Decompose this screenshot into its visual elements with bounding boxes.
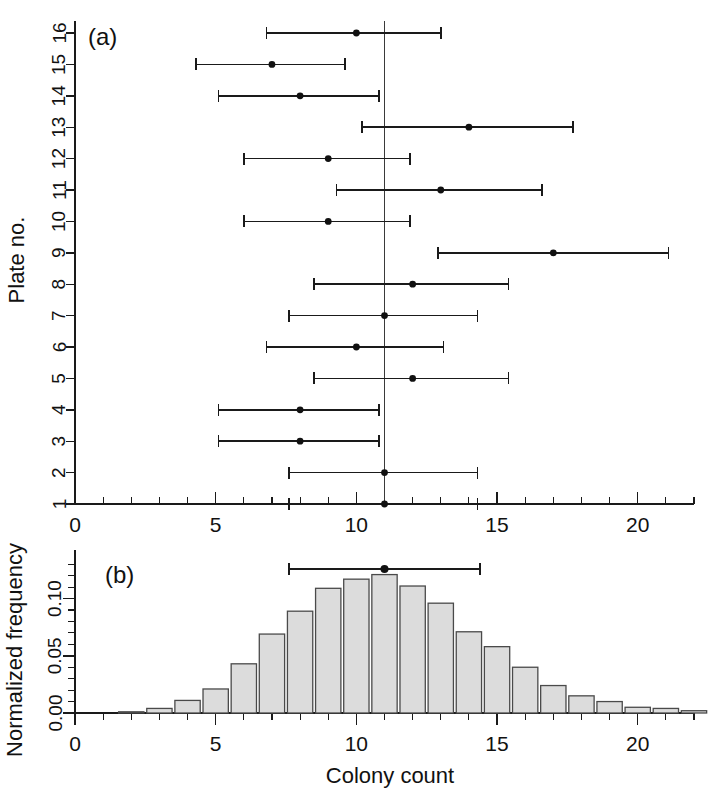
panel-a-y-ticklabel-6: 6 <box>49 342 70 353</box>
panel-b-y-ticklabel-0.10: 0.10 <box>45 580 66 617</box>
interval-estimate-dot <box>269 61 276 68</box>
panel-a-y-ticklabel-7: 7 <box>49 310 70 321</box>
panel-a-y-ticklabel-8: 8 <box>49 279 70 290</box>
interval-estimate-dot <box>381 469 388 476</box>
panel-b-y-ticklabels: 0.000.050.10 <box>45 580 66 731</box>
panel-b-label: (b) <box>105 561 134 588</box>
panel-a-interval-row-plate-4 <box>218 404 378 416</box>
histogram-bar-12 <box>400 586 425 713</box>
histogram-bar-16 <box>513 667 538 713</box>
panel-b-overlay-interval <box>289 563 480 575</box>
interval-estimate-dot <box>297 92 304 99</box>
panel-b-y-ticklabel-0.05: 0.05 <box>45 637 66 674</box>
panel-a-interval-row-plate-8 <box>314 278 508 290</box>
panel-a-interval-row-plate-9 <box>438 247 669 259</box>
panel-a-interval-row-plate-2 <box>289 467 478 479</box>
interval-estimate-dot <box>381 312 388 319</box>
panel-a-x-ticklabel-0: 0 <box>69 513 81 536</box>
histogram-bar-14 <box>456 632 481 713</box>
histogram-bar-21 <box>653 708 678 713</box>
figure-container: (a) Plate no. 12345678910111213141516 05… <box>0 0 710 789</box>
interval-estimate-dot <box>550 249 557 256</box>
histogram-bar-13 <box>428 603 453 713</box>
panel-a-x-ticklabel-15: 15 <box>485 513 508 536</box>
panel-b-y-ticklabel-0.00: 0.00 <box>45 695 66 732</box>
panel-a-y-ticklabel-13: 13 <box>49 117 70 138</box>
interval-estimate-dot <box>297 406 304 413</box>
panel-a-y-ticklabel-1: 1 <box>49 499 70 510</box>
panel-a-y-ticklabel-3: 3 <box>49 436 70 447</box>
panel-a-x-ticklabel-10: 10 <box>345 513 368 536</box>
histogram-bar-9 <box>316 588 341 713</box>
panel-a-y-ticklabel-2: 2 <box>49 467 70 478</box>
panel-a-y-ticklabel-4: 4 <box>49 404 70 415</box>
histogram-bar-20 <box>625 707 650 713</box>
histogram-bar-17 <box>541 686 566 713</box>
panel-a-interval-row-plate-11 <box>337 184 542 196</box>
panel-b-histogram-bars <box>119 575 707 713</box>
panel-a-interval-row-plate-3 <box>218 435 378 447</box>
interval-estimate-dot <box>466 124 473 131</box>
panel-a-interval-row-plate-5 <box>314 372 508 384</box>
panel-a-label: (a) <box>88 23 117 50</box>
panel-a-y-ticklabel-15: 15 <box>49 54 70 75</box>
interval-estimate-dot <box>297 438 304 445</box>
panel-a-y-ticklabel-9: 9 <box>49 248 70 259</box>
histogram-bar-6 <box>231 664 256 713</box>
histogram-bar-2 <box>119 712 144 713</box>
panel-a-y-axis-title: Plate no. <box>4 217 29 304</box>
panel-a-y-ticklabel-14: 14 <box>49 85 70 107</box>
overlay-estimate-dot <box>381 565 389 573</box>
histogram-bar-10 <box>344 579 369 713</box>
panel-a-interval-series <box>196 27 669 510</box>
histogram-bar-4 <box>175 700 200 713</box>
histogram-bar-19 <box>597 702 622 713</box>
histogram-bar-22 <box>681 711 706 713</box>
panel-b-y-axis-title: Normalized frequency <box>2 543 27 757</box>
interval-estimate-dot <box>409 375 416 382</box>
panel-a-interval-row-plate-7 <box>289 310 478 322</box>
interval-estimate-dot <box>353 344 360 351</box>
panel-b-x-ticklabel-15: 15 <box>485 732 508 755</box>
panel-b-y-axis <box>63 550 75 713</box>
panel-a-x-ticklabels: 05101520 <box>69 513 649 536</box>
panel-a-interval-row-plate-16 <box>266 27 440 39</box>
panel-a-y-ticklabel-5: 5 <box>49 373 70 384</box>
panel-a-y-ticklabel-11: 11 <box>49 180 70 200</box>
histogram-bar-8 <box>287 611 312 713</box>
histogram-bar-5 <box>203 689 228 713</box>
histogram-bar-11 <box>372 575 397 713</box>
panel-a-interval-row-plate-15 <box>196 58 345 70</box>
panel-a-y-ticklabel-12: 12 <box>49 148 70 169</box>
interval-estimate-dot <box>409 281 416 288</box>
panel-b: (b) Normalized frequency Colony count 0.… <box>2 543 707 788</box>
panel-b-x-ticklabels: 05101520 <box>69 732 649 755</box>
interval-estimate-dot <box>381 501 388 508</box>
statistical-figure: (a) Plate no. 12345678910111213141516 05… <box>0 0 710 789</box>
panel-a-y-ticklabel-16: 16 <box>49 22 70 43</box>
panel-a-interval-row-plate-13 <box>362 121 573 133</box>
panel-b-x-ticklabel-20: 20 <box>626 732 649 755</box>
panel-b-x-ticklabel-10: 10 <box>345 732 368 755</box>
histogram-bar-15 <box>484 647 509 713</box>
panel-a: (a) Plate no. 12345678910111213141516 05… <box>4 21 694 536</box>
panel-a-x-ticklabel-20: 20 <box>626 513 649 536</box>
interval-estimate-dot <box>325 155 332 162</box>
panel-a-interval-row-plate-14 <box>218 90 378 102</box>
panel-b-x-ticklabel-5: 5 <box>210 732 222 755</box>
panel-a-interval-row-plate-6 <box>266 341 443 353</box>
panel-b-x-ticklabel-0: 0 <box>69 732 81 755</box>
panel-a-x-ticklabel-5: 5 <box>210 513 222 536</box>
histogram-bar-18 <box>569 696 594 713</box>
histogram-bar-3 <box>147 708 172 713</box>
panel-a-y-ticklabel-10: 10 <box>49 211 70 232</box>
histogram-bar-7 <box>259 634 284 713</box>
interval-estimate-dot <box>437 187 444 194</box>
panel-b-x-axis-title: Colony count <box>326 763 454 788</box>
panel-a-y-ticklabels: 12345678910111213141516 <box>49 22 70 509</box>
panel-a-interval-row-plate-1 <box>289 498 478 510</box>
interval-estimate-dot <box>325 218 332 225</box>
interval-estimate-dot <box>353 30 360 37</box>
panel-b-x-axis <box>75 713 694 725</box>
